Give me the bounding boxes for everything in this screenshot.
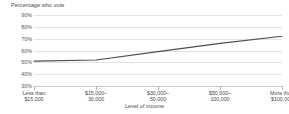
y-axis-tick-label: 70%: [21, 36, 32, 42]
x-axis-title: Level of income: [0, 103, 289, 109]
y-axis-tick-labels: 90%80%70%60%50%40%30%: [8, 15, 32, 86]
y-axis-tick-label: 30%: [21, 83, 32, 89]
x-axis-tick-label: $15,000–30,000: [85, 90, 107, 102]
x-axis-tick-label-line: $100,000: [270, 96, 289, 102]
y-axis-title: Percentage who vote: [11, 2, 65, 8]
x-axis-tick-label: $30,000–50,000: [147, 90, 169, 102]
x-axis-tick-label-line: 30,000: [85, 96, 107, 102]
x-axis-tick-label-line: 50,000: [147, 96, 169, 102]
y-axis-tick-label: 90%: [21, 12, 32, 18]
plot-area: [34, 15, 282, 86]
x-axis-tick-label: Less than$15,000: [23, 90, 46, 102]
line-chart: Percentage who vote 90%80%70%60%50%40%30…: [0, 0, 289, 114]
y-axis-tick-label: 40%: [21, 71, 32, 77]
y-axis-tick-label: 80%: [21, 24, 32, 30]
series-polyline: [34, 36, 282, 61]
data-line-series: [34, 15, 282, 86]
x-axis-tick-label-line: $15,000: [23, 96, 46, 102]
y-axis-tick-label: 50%: [21, 59, 32, 65]
x-axis-tick-label: $50,000–100,000: [209, 90, 231, 102]
x-axis-tick-label-line: 100,000: [209, 96, 231, 102]
x-axis-tick-label: More than$100,000: [270, 90, 289, 102]
y-axis-tick-label: 60%: [21, 48, 32, 54]
